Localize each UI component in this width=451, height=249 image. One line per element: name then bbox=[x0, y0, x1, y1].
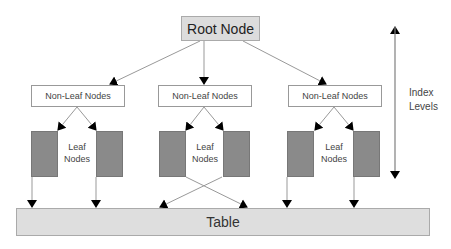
non-leaf-node-right: Non-Leaf Nodes bbox=[288, 85, 382, 107]
index-levels-label: Index Levels bbox=[409, 86, 438, 114]
leaf-label-line1: Leaf bbox=[314, 141, 354, 153]
non-leaf-node-middle: Non-Leaf Nodes bbox=[158, 85, 252, 107]
leaf-label-line1: Leaf bbox=[57, 141, 97, 153]
index-levels-line1: Index bbox=[409, 86, 438, 100]
leaf-label-line2: Nodes bbox=[57, 153, 97, 165]
non-leaf-label: Non-Leaf Nodes bbox=[302, 91, 368, 101]
leaf-node-block bbox=[159, 131, 186, 177]
leaf-label-line2: Nodes bbox=[185, 153, 225, 165]
index-levels-line2: Levels bbox=[409, 100, 438, 114]
leaf-label-line1: Leaf bbox=[185, 141, 225, 153]
leaf-nodes-label-left: Leaf Nodes bbox=[57, 141, 97, 165]
leaf-nodes-label-right: Leaf Nodes bbox=[314, 141, 354, 165]
leaf-node-block bbox=[223, 131, 250, 177]
root-node-label: Root Node bbox=[187, 21, 254, 37]
leaf-node-block bbox=[31, 131, 58, 177]
root-node: Root Node bbox=[181, 16, 260, 41]
table-box: Table bbox=[16, 208, 430, 236]
arrow-root-to-left bbox=[110, 41, 200, 84]
arrow-root-to-right bbox=[243, 41, 326, 84]
leaf-label-line2: Nodes bbox=[314, 153, 354, 165]
leaf-node-block bbox=[287, 131, 314, 177]
leaf-nodes-label-middle: Leaf Nodes bbox=[185, 141, 225, 165]
non-leaf-label: Non-Leaf Nodes bbox=[172, 91, 238, 101]
table-label: Table bbox=[206, 214, 239, 230]
non-leaf-label: Non-Leaf Nodes bbox=[45, 91, 111, 101]
non-leaf-node-left: Non-Leaf Nodes bbox=[31, 85, 125, 107]
leaf-node-block bbox=[353, 131, 380, 177]
leaf-node-block bbox=[96, 131, 123, 177]
